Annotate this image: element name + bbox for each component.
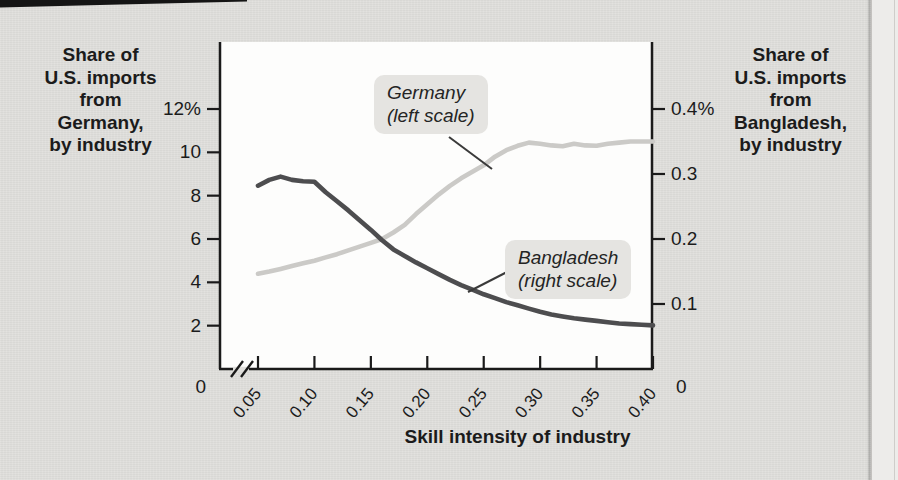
bangladesh-series-label: Bangladesh (right scale) <box>505 240 631 299</box>
page-edge-strip <box>871 0 898 480</box>
right-axis-tick-label: 0.1 <box>671 293 697 314</box>
right-axis-tick-label: 0.4% <box>671 98 714 119</box>
x-axis-tick-label: 0.40 <box>624 384 660 422</box>
right-axis-zero-label: 0 <box>676 376 687 397</box>
x-axis-tick-label: 0.25 <box>455 384 491 422</box>
left-axis-tick-label: 6 <box>190 228 201 249</box>
x-axis-title: Skill intensity of industry <box>360 426 675 448</box>
left-axis-tick-label: 10 <box>180 141 201 162</box>
left-axis-zero-label: 0 <box>195 376 206 397</box>
left-axis-tick-label: 4 <box>190 271 201 292</box>
left-axis-tick-label: 12% <box>163 98 201 119</box>
page-edge-line <box>894 0 895 480</box>
x-axis-tick-label: 0.05 <box>229 384 265 422</box>
germany-series-label: Germany (left scale) <box>374 75 488 134</box>
left-axis-tick-label: 8 <box>190 185 201 206</box>
right-axis-tick-label: 0.3 <box>671 163 697 184</box>
x-axis-tick-label: 0.15 <box>342 384 378 422</box>
chart-canvas: 0.050.100.150.200.250.300.350.4012%10864… <box>0 0 898 480</box>
x-axis-tick-label: 0.30 <box>511 384 547 422</box>
right-axis-tick-label: 0.2 <box>671 228 697 249</box>
figure-page: Share of U.S. imports from Germany, by i… <box>0 0 898 480</box>
x-axis-tick-label: 0.10 <box>286 384 322 422</box>
x-axis-tick-label: 0.35 <box>568 384 604 422</box>
left-axis-tick-label: 2 <box>190 315 201 336</box>
x-axis-tick-label: 0.20 <box>399 384 435 422</box>
